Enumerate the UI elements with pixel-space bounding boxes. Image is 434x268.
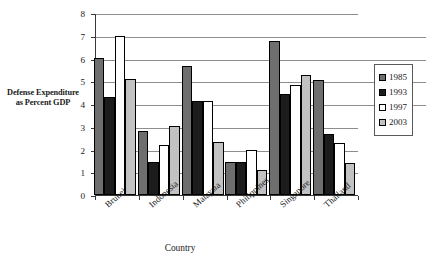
bar — [280, 94, 291, 195]
legend-item: 2003 — [379, 115, 407, 130]
x-axis-tick — [314, 196, 315, 200]
y-axis-tick-label: 2 — [80, 146, 85, 156]
bar — [313, 80, 324, 195]
y-axis-tick: 7 — [91, 37, 95, 38]
y-axis-tick-label: 6 — [80, 55, 85, 65]
y-axis-tick-label: 5 — [80, 77, 85, 87]
bar — [148, 162, 159, 195]
y-axis-tick-label: 3 — [80, 123, 85, 133]
plot-area: 012345678 BruneiIndonesiaMalaysiaPhilipp… — [95, 14, 358, 196]
legend-label: 1997 — [389, 103, 407, 112]
y-axis-tick-label: 4 — [80, 100, 85, 110]
x-axis-tick — [95, 196, 96, 200]
x-axis-tick — [358, 196, 359, 200]
x-axis-tick — [270, 196, 271, 200]
y-axis-tick-label: 8 — [80, 9, 85, 19]
gridline — [96, 60, 426, 61]
legend-swatch-icon — [379, 89, 386, 96]
bar — [104, 97, 115, 195]
y-axis-tick-label: 1 — [80, 168, 85, 178]
legend-swatch-icon — [379, 104, 386, 111]
chart-legend: 1985199319972003 — [374, 64, 413, 136]
legend-item: 1985 — [379, 70, 407, 85]
legend-swatch-icon — [379, 119, 386, 126]
bar — [192, 101, 203, 195]
y-axis-title: Defense Expenditure as Percent GDP — [6, 88, 80, 109]
y-axis-tick-label: 7 — [80, 32, 85, 42]
bar — [182, 66, 193, 195]
bar — [115, 36, 126, 195]
legend-item: 1993 — [379, 85, 407, 100]
legend-label: 1985 — [389, 73, 407, 82]
x-axis-tick — [183, 196, 184, 200]
bar — [138, 131, 149, 195]
y-axis-tick-label: 0 — [80, 191, 85, 201]
bar — [301, 75, 312, 195]
legend-swatch-icon — [379, 74, 386, 81]
x-axis-title: Country — [0, 243, 360, 253]
legend-item: 1997 — [379, 100, 407, 115]
bar — [125, 79, 136, 195]
x-axis-tick — [227, 196, 228, 200]
bar — [225, 162, 236, 195]
bar — [203, 101, 214, 195]
legend-label: 1993 — [389, 88, 407, 97]
legend-label: 2003 — [389, 118, 407, 127]
bar — [269, 41, 280, 195]
bar — [236, 162, 247, 195]
bar — [290, 85, 301, 195]
gridline — [96, 14, 358, 15]
bar — [94, 58, 105, 195]
x-axis-tick — [139, 196, 140, 200]
y-axis-tick: 8 — [91, 14, 95, 15]
gridline — [96, 37, 426, 38]
bar-chart-figure: Defense Expenditure as Percent GDP 01234… — [0, 0, 434, 268]
bar — [324, 134, 335, 195]
